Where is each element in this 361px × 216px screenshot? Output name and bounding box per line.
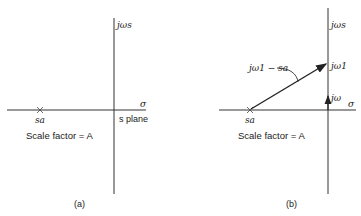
panel-b: jωs jω1 − sa jω1 jω σ sa Scale factor = … — [219, 8, 356, 209]
panel-b-jw-label: jω — [329, 93, 342, 103]
panel-b-jws-label: jωs — [329, 20, 346, 30]
panel-a: jωs σ s plane sa Scale factor = A (a) — [7, 18, 148, 209]
panel-b-scale-factor: Scale factor = A — [238, 130, 305, 141]
panel-b-caption: (b) — [286, 199, 297, 209]
pole-zero-diagram: jωs σ s plane sa Scale factor = A (a) jω… — [0, 0, 361, 216]
panel-b-sigma-label: σ — [348, 99, 355, 109]
panel-a-scale-factor: Scale factor = A — [26, 130, 93, 141]
panel-a-plane-label: s plane — [119, 114, 148, 124]
panel-a-pole-label: sa — [35, 115, 45, 125]
panel-a-caption: (a) — [74, 199, 85, 209]
panel-b-vector-label: jω1 − sa — [247, 63, 288, 73]
panel-a-jws-label: jωs — [115, 20, 132, 30]
panel-b-jw1-label: jω1 — [329, 61, 347, 71]
panel-a-sigma-label: σ — [140, 99, 147, 109]
panel-b-pole-label: sa — [245, 115, 255, 125]
